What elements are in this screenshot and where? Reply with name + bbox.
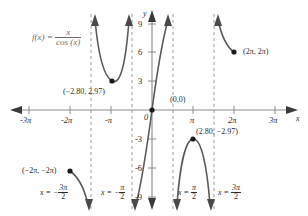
graph-figure: f(x) = x cos (x) -3π -2π -π π 2π 3π 9 6 …	[0, 0, 308, 216]
y-tick-label-3: 3	[138, 77, 142, 86]
asymptote-label-neg-pi-2-prefix: x = −	[101, 188, 119, 197]
asymptote-label-neg-3pi-2-denominator: 2	[58, 193, 68, 201]
point-marker-endpoint-upper-right	[231, 49, 236, 54]
asymptote-label-neg-3pi-2: x = −3π2	[40, 184, 68, 202]
asymptote-label-3pi-2-fraction: 3π2	[231, 184, 241, 202]
asymptote-label-neg-pi-2: x = −π2	[101, 184, 125, 202]
point-marker-local-min-left	[109, 78, 114, 83]
y-axis-label: y	[143, 10, 147, 18]
curve-arrow-up-right	[214, 14, 222, 26]
x-axis-arrow-right	[286, 106, 298, 114]
function-label: f(x) = x cos (x)	[32, 28, 81, 48]
y-axis-arrow-down	[148, 198, 156, 210]
asymptote-label-neg-pi-2-denominator: 2	[119, 193, 125, 201]
x-tick-label-3pi: 3π	[269, 116, 278, 125]
asymptote-label-neg-pi-2-fraction: π2	[119, 184, 125, 202]
curve-branch-u-shape	[95, 20, 129, 82]
x-axis-label: x	[296, 115, 300, 123]
curve-arrow-down-left	[85, 199, 93, 211]
asymptote-label-pi-2: x = π2	[178, 184, 197, 202]
asymptote-label-neg-3pi-2-prefix: x = −	[40, 188, 58, 197]
point-marker-endpoint-lower-left	[67, 168, 72, 173]
curve-arrowheads	[85, 14, 222, 211]
x-axis-arrow-left	[10, 106, 22, 114]
x-tick-label--3pi: -3π	[20, 116, 31, 125]
asymptote-label-neg-3pi-2-fraction: 3π2	[58, 184, 68, 202]
point-label-endpoint-upper-right: (2π, 2π)	[243, 48, 268, 56]
asymptote-label-3pi-2-denominator: 2	[231, 193, 241, 201]
asymptote-label-pi-2-denominator: 2	[191, 193, 197, 201]
x-tick-label--2pi: -2π	[61, 116, 72, 125]
asymptote-label-3pi-2: x = 3π2	[218, 184, 241, 202]
y-axis-arrow-up	[148, 10, 156, 22]
function-label-lhs: f(x) =	[32, 32, 53, 42]
point-marker-origin	[149, 107, 154, 112]
y-tick-label--9: -9	[135, 193, 142, 202]
point-label-endpoint-lower-left: (−2π, −2π)	[22, 167, 56, 175]
point-label-local-min-left: (−2.80, 2.97)	[63, 88, 105, 96]
curve-arrow-up-center	[164, 14, 172, 26]
asymptote-label-pi-2-prefix: x =	[178, 188, 191, 197]
y-tick-label--3: -3	[135, 135, 142, 144]
y-tick-label-0: 0	[144, 113, 148, 122]
x-tick-label-pi: π	[190, 116, 194, 125]
point-label-origin: (0,0)	[170, 96, 185, 104]
function-label-fraction: x cos (x)	[55, 28, 81, 48]
asymptote-label-pi-2-fraction: π2	[191, 184, 197, 202]
curve-arrow-down-d	[207, 199, 215, 211]
function-label-denominator: cos (x)	[55, 38, 81, 47]
x-tick-label--pi: -π	[105, 116, 112, 125]
y-tick-label-9: 9	[138, 20, 142, 29]
point-marker-local-max-right	[190, 136, 195, 141]
curve-arrow-up-a	[91, 14, 99, 26]
y-tick-label-6: 6	[138, 48, 142, 57]
y-tick-label--6: -6	[135, 164, 142, 173]
asymptote-label-3pi-2-prefix: x =	[218, 188, 231, 197]
point-label-local-max-right: (2.80, −2.97)	[196, 128, 238, 136]
x-tick-label-2pi: 2π	[228, 116, 237, 125]
